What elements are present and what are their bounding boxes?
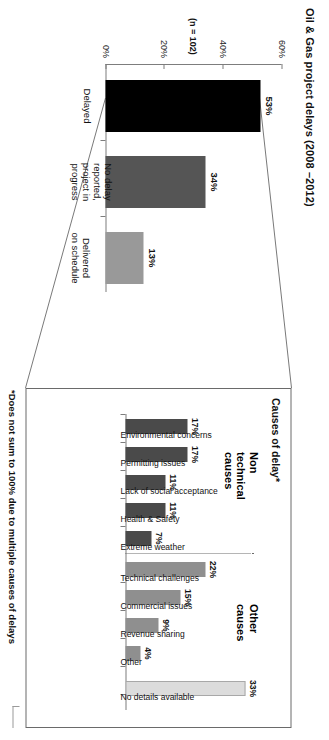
category-label-no-delay-reported: No delay reported, project in progress (69, 144, 113, 220)
causes-chart: 17% 17% 11% 11% 7% 22% 15% 9% 4% 33% Env… (29, 392, 267, 722)
main-y-axis (105, 64, 281, 65)
panel-title: Causes of delay* (269, 398, 281, 482)
footnote: *Does not sum to 100% due to multiple ca… (6, 390, 17, 644)
bar-delayed (105, 80, 260, 132)
cause-label-revenue-sharing: Revenue sharing (120, 629, 184, 639)
decorative-rule-end (12, 706, 19, 707)
y-tick-0 (105, 64, 106, 69)
category-label-delivered-on-schedule: Delivered on schedule (69, 220, 91, 296)
cause-value-permitting-issues: 17% (189, 442, 199, 467)
y-tick-60 (281, 64, 282, 69)
y-tick-40 (222, 64, 223, 69)
y-tick-label-0: 0% (100, 24, 110, 58)
slide-canvas: Oil & Gas project delays (2008 –2012) 0%… (0, 0, 329, 740)
decorative-rule (12, 706, 13, 728)
bar-value-delivered-on-schedule: 13% (146, 232, 157, 284)
y-tick-label-20: 20% (158, 24, 168, 58)
cause-label-environmental-concerns: Environmental concerns (120, 430, 211, 440)
bar-delivered-on-schedule (105, 232, 143, 284)
cause-label-lack-of-social-acceptance: Lack of social acceptance (120, 486, 217, 496)
cause-label-other: Other (120, 657, 141, 667)
causes-x-tick-0 (120, 414, 125, 415)
y-tick-label-60: 60% (276, 24, 286, 58)
cause-label-health-and-safety: Health & Safety (120, 514, 179, 524)
bar-value-no-delay-reported: 34% (208, 156, 219, 208)
bar-value-delayed: 53% (263, 80, 274, 132)
cause-value-other: 4% (142, 641, 152, 666)
y-tick-20 (163, 64, 164, 69)
y-tick-label-40: 40% (217, 24, 227, 58)
causes-x-tick-2 (120, 470, 125, 471)
causes-x-tick-4 (120, 526, 125, 527)
page-title: Oil & Gas project delays (2008 –2012) (303, 8, 315, 207)
group-label-non-technical-causes: Non technical causes (222, 452, 260, 500)
screenshot-frame: Oil & Gas project delays (2008 –2012) 0%… (0, 0, 329, 740)
cause-label-commercial-issues: Commercial issues (120, 601, 192, 611)
cause-value-no-details-available: 33% (247, 676, 257, 701)
bar-no-delay-reported (105, 156, 205, 208)
cause-label-permitting-issues: Permitting issues (120, 458, 185, 468)
causes-x-tick-3 (120, 498, 125, 499)
cause-label-no-details-available: No details available (120, 692, 194, 702)
category-label-delayed: Delayed (81, 68, 92, 144)
cause-label-technical-challenges: Technical challenges (120, 573, 198, 583)
cause-value-technical-challenges: 22% (207, 557, 217, 582)
sample-size-label: (n = 102) (187, 18, 197, 55)
cause-label-extreme-weather: Extreme weather (120, 542, 184, 552)
x-tick-1 (100, 140, 105, 141)
group-label-other-causes: Other causes (234, 604, 259, 641)
group-divider (125, 553, 253, 554)
causes-x-tick-1 (120, 442, 125, 443)
main-chart: 0% 20% 40% 60% (n = 102) 53% 34% 13% Del… (59, 12, 281, 304)
